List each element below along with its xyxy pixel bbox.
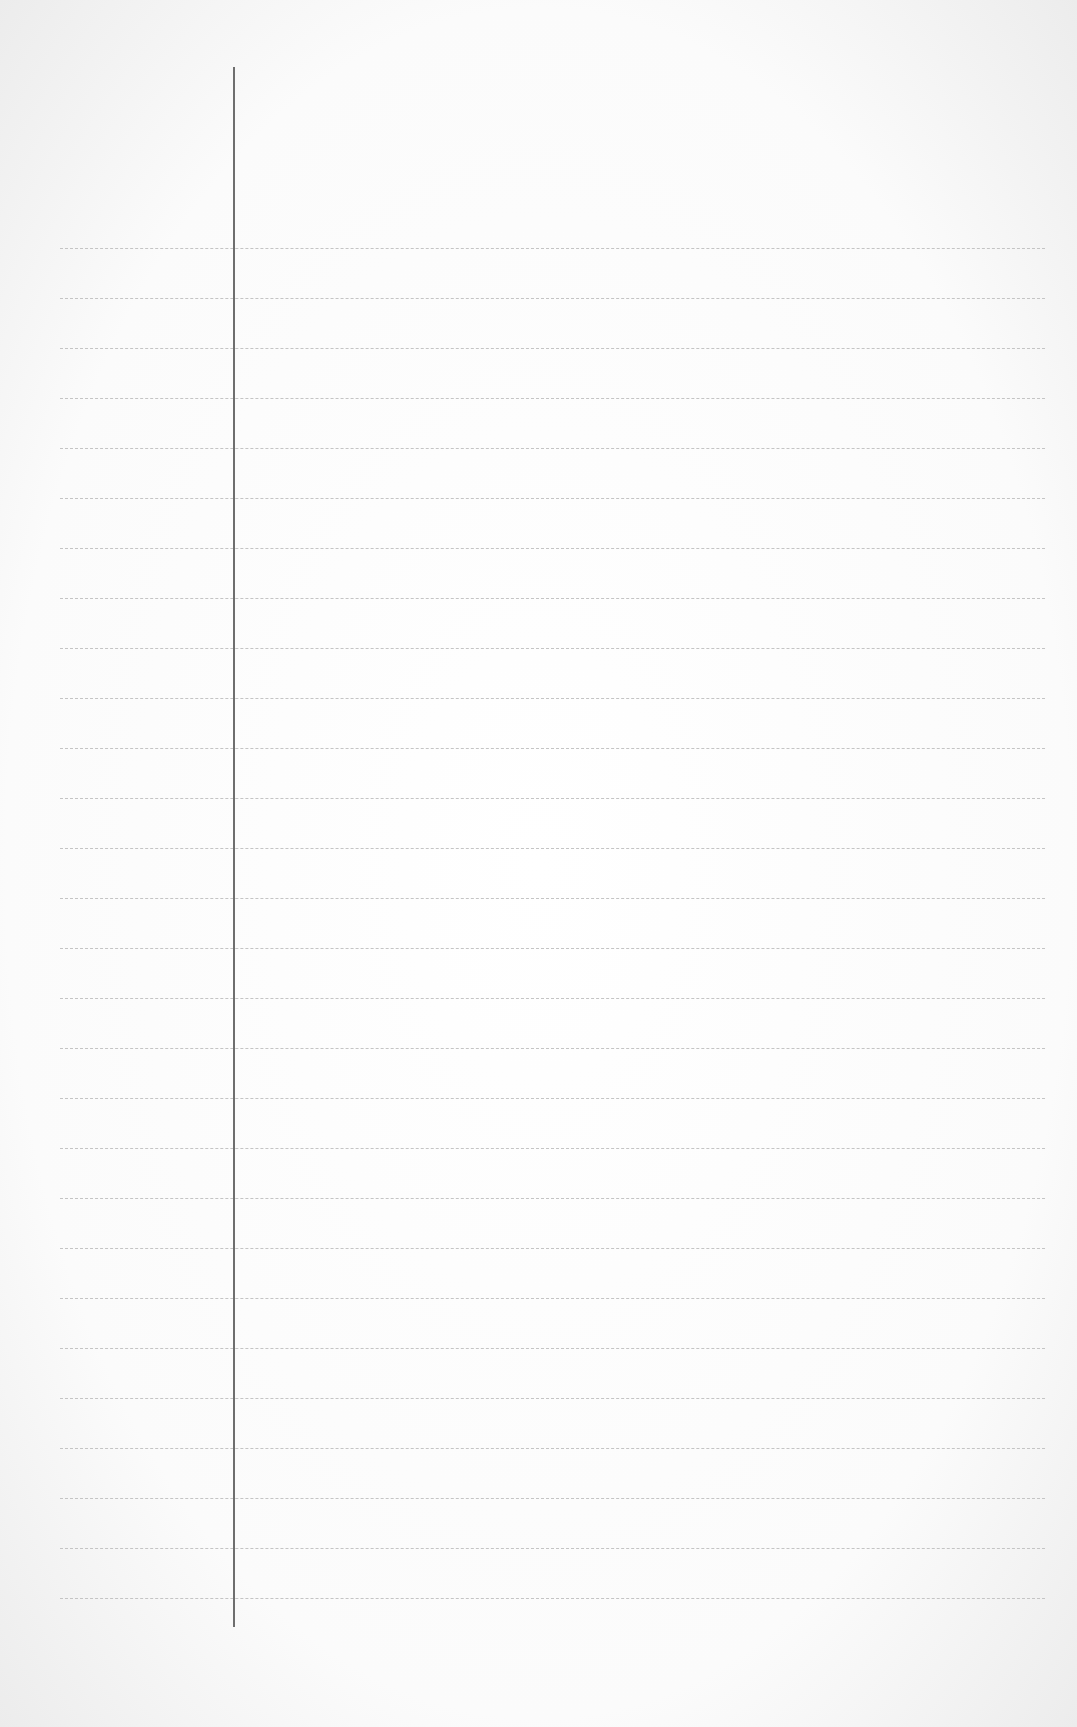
ruled-line bbox=[60, 298, 1045, 299]
ruled-line bbox=[60, 1198, 1045, 1199]
ruled-line bbox=[60, 1448, 1045, 1449]
ruled-line bbox=[60, 1148, 1045, 1149]
ruled-line bbox=[60, 548, 1045, 549]
ruled-line bbox=[60, 398, 1045, 399]
ruled-line bbox=[60, 698, 1045, 699]
ruled-line bbox=[60, 648, 1045, 649]
ruled-line bbox=[60, 948, 1045, 949]
ruled-line bbox=[60, 1298, 1045, 1299]
ruled-line bbox=[60, 598, 1045, 599]
ruled-line bbox=[60, 448, 1045, 449]
ruled-line bbox=[60, 848, 1045, 849]
lined-paper-sheet bbox=[0, 0, 1077, 1727]
ruled-line bbox=[60, 248, 1045, 249]
ruled-line bbox=[60, 348, 1045, 349]
margin-line bbox=[233, 67, 235, 1627]
ruled-line bbox=[60, 1548, 1045, 1549]
ruled-line bbox=[60, 498, 1045, 499]
ruled-line bbox=[60, 1048, 1045, 1049]
ruled-line bbox=[60, 1398, 1045, 1399]
ruled-line bbox=[60, 998, 1045, 999]
ruled-line bbox=[60, 1598, 1045, 1599]
ruled-line bbox=[60, 798, 1045, 799]
ruled-line bbox=[60, 1098, 1045, 1099]
ruled-line bbox=[60, 1348, 1045, 1349]
ruled-line bbox=[60, 748, 1045, 749]
ruled-line bbox=[60, 1248, 1045, 1249]
ruled-line bbox=[60, 1498, 1045, 1499]
ruled-line bbox=[60, 898, 1045, 899]
